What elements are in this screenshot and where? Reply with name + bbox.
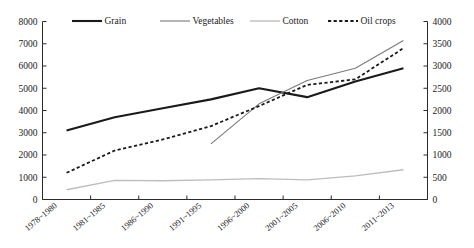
chart-series xyxy=(67,40,404,189)
y-tick-label-right: 500 xyxy=(433,173,448,183)
y-axis-right-labels: 05001000150020002500300035004000 xyxy=(433,17,452,205)
y-tick-label-right: 2500 xyxy=(433,84,452,94)
y-tick-label-left: 7000 xyxy=(19,39,38,49)
y-tick-label-right: 4000 xyxy=(433,17,452,27)
legend-label-cotton: Cotton xyxy=(283,16,309,26)
legend-label-grain: Grain xyxy=(105,16,127,26)
series-line-oil-crops xyxy=(67,48,404,173)
legend-label-vegetables: Vegetables xyxy=(193,16,234,26)
y-tick-label-left: 1000 xyxy=(19,173,38,183)
axis-frame xyxy=(43,22,428,200)
x-tick-label: 1978~1980 xyxy=(23,200,59,233)
y-tick-label-left: 3000 xyxy=(19,128,38,138)
y-tick-label-right: 3500 xyxy=(433,39,452,49)
x-tick-label: 1996~2000 xyxy=(215,200,251,233)
x-tick-label: 1986~1990 xyxy=(119,200,155,233)
x-tick-label: 2011~2013 xyxy=(360,200,396,233)
x-tick-label: 2001~2005 xyxy=(263,200,299,233)
y-tick-label-left: 2000 xyxy=(19,150,38,160)
series-line-grain xyxy=(67,68,404,130)
x-tick-label: 2006~2010 xyxy=(311,200,347,233)
y-tick-label-left: 4000 xyxy=(19,106,38,116)
line-chart: GrainVegetablesCottonOil crops 010002000… xyxy=(0,0,474,248)
y-tick-label-left: 6000 xyxy=(19,61,38,71)
y-tick-label-right: 3000 xyxy=(433,61,452,71)
y-tick-label-left: 8000 xyxy=(19,17,38,27)
legend-label-oil-crops: Oil crops xyxy=(361,16,396,26)
chart-canvas: GrainVegetablesCottonOil crops 010002000… xyxy=(0,0,474,248)
chart-axes xyxy=(43,22,428,200)
y-tick-label-right: 2000 xyxy=(433,106,452,116)
y-tick-label-right: 0 xyxy=(433,195,438,205)
chart-legend: GrainVegetablesCottonOil crops xyxy=(72,16,396,26)
series-line-cotton xyxy=(67,170,404,190)
y-axis-left-labels: 010002000300040005000600070008000 xyxy=(19,17,38,205)
y-tick-label-right: 1000 xyxy=(433,150,452,160)
y-tick-label-left: 0 xyxy=(33,195,38,205)
y-tick-label-right: 1500 xyxy=(433,128,452,138)
x-tick-label: 1981~1985 xyxy=(71,200,107,233)
x-axis-labels: 1978~19801981~19851986~19901991~19951996… xyxy=(23,200,396,233)
x-tick-label: 1991~1995 xyxy=(167,200,203,233)
y-tick-label-left: 5000 xyxy=(19,84,38,94)
